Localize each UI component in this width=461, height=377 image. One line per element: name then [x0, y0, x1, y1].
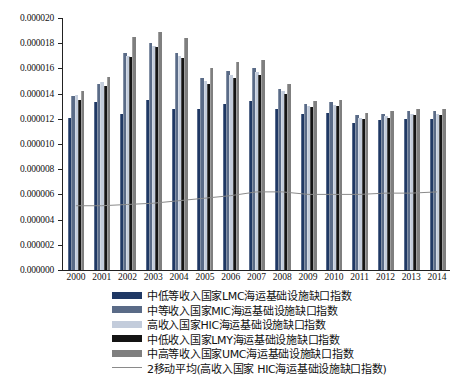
x-tick-label: 2009: [295, 272, 321, 282]
x-tick-label: 2013: [398, 272, 424, 282]
legend-item[interactable]: 中高等收入国家UMC海运基础设施缺口指数: [112, 346, 353, 360]
legend-item[interactable]: 高收入国家HIC海运基础设施缺口指数: [112, 317, 326, 331]
x-tick-label: 2012: [373, 272, 399, 282]
legend-item[interactable]: 中低收入国家LMY海运基础设施缺口指数: [112, 332, 340, 346]
chart-legend: 中低等收入国家LMC海运基础设施缺口指数中等收入国家MIC海运基础设施缺口指数高…: [0, 288, 461, 377]
x-tick-label: 2008: [269, 272, 295, 282]
y-tick-label: 0.000010: [20, 139, 54, 149]
legend-swatch-icon: [112, 335, 142, 342]
x-tick-label: 2006: [218, 272, 244, 282]
plot-wrapper: 0.0000200.0000180.0000160.0000140.000012…: [0, 0, 461, 285]
y-tick-label: 0.000000: [20, 265, 54, 275]
y-tick-label: 0.000016: [20, 63, 54, 73]
y-tick-label: 0.000004: [20, 215, 54, 225]
chart-container: 0.0000200.0000180.0000160.0000140.000012…: [0, 0, 461, 377]
y-tick-label: 0.000006: [20, 189, 54, 199]
moving-average-line: [63, 18, 450, 270]
x-tick-label: 2010: [321, 272, 347, 282]
x-tick-label: 2007: [244, 272, 270, 282]
y-tick-label: 0.000008: [20, 164, 54, 174]
legend-swatch-icon: [112, 321, 142, 328]
y-tick-label: 0.000020: [20, 13, 54, 23]
y-axis: 0.0000200.0000180.0000160.0000140.000012…: [0, 0, 62, 285]
x-tick-label: 2002: [115, 272, 141, 282]
x-tick-label: 2011: [347, 272, 373, 282]
legend-swatch-icon: [112, 292, 142, 299]
x-tick-label: 2014: [424, 272, 450, 282]
x-axis-labels: 2000200120022003200420052006200720082009…: [63, 272, 450, 286]
legend-swatch-icon: [112, 350, 142, 357]
legend-item[interactable]: 中等收入国家MIC海运基础设施缺口指数: [112, 303, 338, 317]
legend-item[interactable]: 中低等收入国家LMC海运基础设施缺口指数: [112, 288, 351, 302]
x-tick-label: 2004: [166, 272, 192, 282]
x-tick-label: 2003: [140, 272, 166, 282]
legend-item[interactable]: 2移动平均(高收入国家 HIC海运基础设施缺口指数): [112, 361, 386, 375]
y-tick-label: 0.000002: [20, 240, 54, 250]
x-tick-label: 2005: [192, 272, 218, 282]
y-tick-label: 0.000018: [20, 38, 54, 48]
x-axis-line: [62, 270, 450, 271]
x-tick-label: 2001: [89, 272, 115, 282]
legend-line-icon: [112, 367, 142, 369]
legend-label: 2移动平均(高收入国家 HIC海运基础设施缺口指数): [147, 360, 386, 376]
y-tick-label: 0.000012: [20, 114, 54, 124]
x-tick-label: 2000: [63, 272, 89, 282]
y-tick-label: 0.000014: [20, 89, 54, 99]
moving-average-polyline: [76, 192, 437, 206]
legend-swatch-icon: [112, 306, 142, 313]
